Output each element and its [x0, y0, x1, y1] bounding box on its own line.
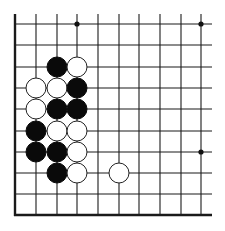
star-point-icon — [198, 21, 203, 26]
black-stone — [47, 142, 67, 162]
black-stone — [47, 163, 67, 183]
black-stone — [67, 78, 87, 98]
white-stone — [67, 163, 87, 183]
black-stone — [47, 99, 67, 119]
white-stone — [47, 121, 67, 141]
white-stone — [26, 99, 46, 119]
black-stone — [26, 142, 46, 162]
black-stone — [26, 121, 46, 141]
star-point-icon — [74, 21, 79, 26]
white-stone — [67, 57, 87, 77]
black-stone — [47, 57, 67, 77]
white-stone — [109, 163, 129, 183]
white-stone — [26, 78, 46, 98]
white-stone — [67, 121, 87, 141]
go-board — [0, 0, 225, 231]
white-stone — [67, 142, 87, 162]
star-point-icon — [198, 149, 203, 154]
black-stone — [67, 99, 87, 119]
white-stone — [47, 78, 67, 98]
